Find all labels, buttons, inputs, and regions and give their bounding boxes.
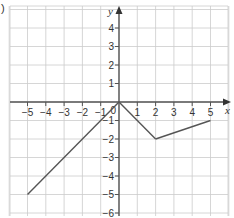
series-segment — [156, 121, 211, 140]
x-tick-label: 1 — [135, 107, 141, 118]
y-axis-label: y — [107, 5, 113, 17]
x-tick-label: 4 — [189, 107, 195, 118]
y-tick-label: −6 — [103, 208, 115, 218]
y-tick-label: −3 — [103, 152, 115, 163]
x-tick-label: 2 — [153, 107, 159, 118]
x-axis-label: x — [224, 104, 230, 116]
x-tick-label: −4 — [40, 107, 52, 118]
y-tick-label: 3 — [108, 41, 114, 52]
y-tick-label: 4 — [108, 23, 114, 34]
x-tick-label: 3 — [171, 107, 177, 118]
x-tick-label: 5 — [208, 107, 214, 118]
coordinate-graph: ) xy −5−4−3−2−112345−6−5−4−3−2−112340 — [0, 0, 234, 217]
y-tick-label: −5 — [103, 189, 115, 200]
y-tick-label: −4 — [103, 171, 115, 182]
y-tick-label: 2 — [108, 60, 114, 71]
y-axis-arrow-icon — [116, 6, 123, 14]
x-tick-label: −5 — [22, 107, 34, 118]
y-tick-label: 1 — [108, 78, 114, 89]
y-tick-label: −2 — [103, 134, 115, 145]
part-label: ) — [1, 2, 5, 14]
x-tick-label: −2 — [77, 107, 89, 118]
ticks: −5−4−3−2−112345−6−5−4−3−2−112340 — [22, 23, 214, 218]
x-tick-label: −3 — [58, 107, 70, 118]
